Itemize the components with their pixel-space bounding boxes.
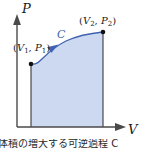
point-marker-v1p1 [29,62,34,67]
v-axis-arrowhead [115,123,126,131]
point-label-v2p2: (V2, P2) [79,15,116,28]
point-label-v2p2-close: ) [112,15,116,26]
p-axis-arrowhead [13,14,21,25]
curve-label-c: C [57,28,66,41]
point-label-v1p1: (V1, P1) [13,42,50,55]
point-marker-v2p2 [101,30,106,35]
pv-diagram-canvas: P V (V1, P1) (V2, P2) C [0,0,142,150]
figure-caption-text: 体積の増大する可逆過程 C [0,139,140,149]
point-label-v1p1-close: ) [46,42,50,53]
pv-diagram-figure: P V (V1, P1) (V2, P2) C 体積の増大する可逆過程 C [0,0,142,150]
v-axis-label: V [128,122,139,137]
p-axis-label: P [21,1,31,16]
figure-caption: 体積の増大する可逆過程 C [0,139,142,150]
